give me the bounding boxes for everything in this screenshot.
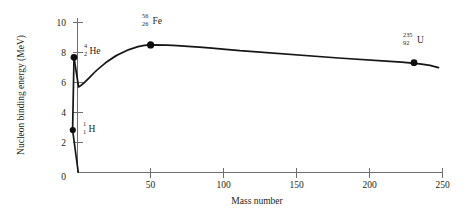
annotation-uranium: 235 92 U	[403, 31, 424, 46]
data-point-helium	[71, 54, 78, 61]
annotation-uranium-mass-number: 235	[403, 31, 412, 38]
chart-data-curve	[73, 45, 439, 172]
binding-energy-chart-figure: 10 8 6 4 2 0 50 100 150 200 250 Mass num…	[0, 0, 467, 212]
y-tick-label-0: 0	[61, 172, 66, 182]
x-tick-label-50: 50	[146, 180, 156, 190]
chart-data-points	[70, 41, 418, 133]
chart-annotations: 1 1 H 4 2 He 56 26 Fe 235 92 U	[83, 12, 424, 135]
y-tick-label-4: 4	[61, 108, 66, 118]
annotation-hydrogen-mass-number: 1	[83, 120, 86, 127]
annotation-hydrogen-element: H	[89, 124, 96, 134]
x-tick-label-200: 200	[362, 180, 377, 190]
x-tick-label-150: 150	[289, 180, 304, 190]
annotation-iron-element: Fe	[153, 16, 163, 26]
x-tick-label-100: 100	[216, 180, 231, 190]
y-tick-label-6: 6	[61, 78, 66, 88]
annotation-iron: 56 26 Fe	[142, 12, 162, 27]
x-axis-tick-labels: 50 100 150 200 250	[146, 180, 450, 190]
chart-axes	[78, 18, 444, 173]
y-axis-tick-labels: 10 8 6 4 2 0	[57, 18, 67, 182]
data-point-uranium	[411, 59, 418, 66]
y-axis-title: Nucleon binding energy (MeV)	[16, 35, 27, 155]
data-point-iron	[147, 41, 154, 48]
y-tick-label-2: 2	[61, 138, 66, 148]
annotation-helium-atomic-number: 2	[84, 50, 87, 57]
binding-energy-curve	[74, 45, 439, 87]
data-point-hydrogen	[70, 127, 76, 133]
annotation-hydrogen: 1 1 H	[83, 120, 96, 135]
binding-energy-chart-svg: 10 8 6 4 2 0 50 100 150 200 250 Mass num…	[0, 0, 467, 212]
annotation-helium-mass-number: 4	[84, 42, 88, 49]
x-axis-title: Mass number	[231, 196, 283, 206]
annotation-helium-element: He	[90, 46, 101, 56]
x-tick-label-250: 250	[435, 180, 450, 190]
annotation-uranium-element: U	[417, 35, 424, 45]
annotation-uranium-atomic-number: 92	[403, 39, 409, 46]
annotation-helium: 4 2 He	[84, 42, 101, 57]
annotation-iron-atomic-number: 26	[142, 20, 148, 27]
y-tick-label-10: 10	[57, 18, 67, 28]
annotation-hydrogen-atomic-number: 1	[83, 128, 86, 135]
y-tick-label-8: 8	[61, 48, 66, 58]
annotation-iron-mass-number: 56	[142, 12, 148, 19]
